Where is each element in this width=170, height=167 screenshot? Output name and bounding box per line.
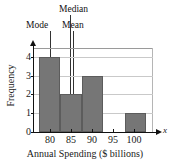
y-tick-label: 4: [21, 52, 31, 62]
x-tick-label: 100: [122, 134, 146, 145]
histogram-bar: [125, 113, 146, 132]
plot-right-border: [152, 48, 153, 132]
histogram-figure: Mode Median Mean x 4 3 2 1 0: [0, 0, 170, 167]
x-axis-variable-name: x: [163, 125, 167, 135]
histogram-bar: [39, 57, 60, 132]
x-tick-mark: [113, 129, 114, 133]
y-tick-label: 3: [21, 71, 31, 81]
y-tick-label: 1: [21, 108, 31, 118]
y-tick-label-group: 4 3 2 1 0: [17, 0, 31, 167]
y-tick-label: 2: [21, 89, 31, 99]
x-axis-line: [33, 132, 159, 133]
histogram-bar: [60, 94, 82, 132]
x-axis-arrow-icon: [156, 129, 162, 135]
plot-area: [33, 48, 153, 132]
y-tick-mark: [31, 113, 34, 114]
y-tick-mark: [31, 57, 34, 58]
y-tick-mark: [31, 76, 34, 77]
plot-top-border: [33, 48, 153, 49]
x-tick-mark: [71, 129, 72, 133]
x-tick-mark: [50, 129, 51, 133]
y-tick-mark: [31, 132, 34, 133]
x-tick-mark: [134, 129, 135, 133]
annotation-label-median: Median: [59, 4, 88, 14]
annotation-label-mean: Mean: [62, 20, 84, 30]
y-axis-title: Frequency: [5, 56, 16, 116]
x-axis-title: Annual Spending ($ billions): [0, 148, 170, 159]
histogram-bar: [82, 76, 103, 132]
x-tick-mark: [92, 129, 93, 133]
y-tick-mark: [31, 94, 34, 95]
y-tick-label: 0: [21, 127, 31, 137]
